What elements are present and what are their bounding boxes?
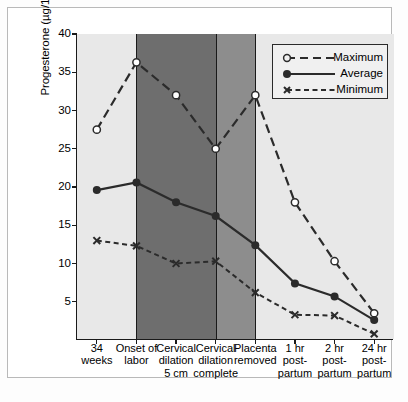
y-tick-label: 40 (47, 28, 71, 40)
legend-label: Average (340, 67, 383, 80)
y-tick-label: 30 (47, 105, 71, 117)
legend-label: Maximum (333, 51, 383, 64)
data-point-filled-circle (331, 292, 339, 300)
y-tick-label: 25 (47, 143, 71, 155)
data-point-filled-circle (132, 178, 140, 186)
plot-area: Progesterone (µg/100 mL plasma) 40353025… (76, 34, 393, 340)
series-average (93, 178, 378, 324)
y-tick-label: 35 (47, 67, 71, 79)
data-point-open-circle (371, 310, 378, 317)
data-point-open-circle (252, 92, 259, 99)
data-point-filled-circle (370, 316, 378, 324)
y-tick-label: 20 (47, 181, 71, 193)
data-point-open-circle (93, 126, 100, 133)
legend-item: Minimum (273, 81, 389, 99)
data-point-x-marker (371, 330, 378, 337)
data-point-open-circle (172, 92, 179, 99)
data-point-open-circle (212, 145, 219, 152)
series-line (97, 241, 374, 334)
data-point-open-circle (133, 59, 140, 66)
data-point-filled-circle (251, 241, 259, 249)
legend-label: Minimum (336, 83, 383, 96)
x-tick-label: 24 hrpost-partum (341, 342, 407, 379)
figure-frame: Progesterone (µg/100 mL plasma) 40353025… (7, 7, 392, 378)
data-point-open-circle (331, 258, 338, 265)
y-axis-title: Progesterone (µg/100 mL plasma) (39, 0, 55, 120)
data-point-filled-circle (212, 212, 220, 220)
series-minimum (93, 237, 377, 337)
data-point-filled-circle (291, 279, 299, 287)
x-marker-icon (281, 81, 337, 99)
data-point-open-circle (291, 199, 298, 206)
data-point-filled-circle (172, 198, 180, 206)
data-point-x-marker (252, 289, 259, 296)
y-tick-label: 15 (47, 220, 71, 232)
data-point-filled-circle (93, 186, 101, 194)
series-line (97, 62, 374, 313)
y-tick-label: 5 (47, 296, 71, 308)
figure: Progesterone (µg/100 mL plasma) 40353025… (0, 0, 408, 402)
y-tick-label: 10 (47, 258, 71, 270)
legend: MaximumAverageMinimum (272, 44, 388, 99)
